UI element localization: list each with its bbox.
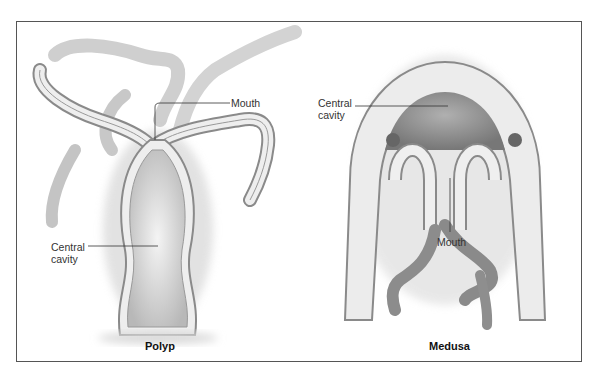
- polyp-drawing: [40, 32, 295, 344]
- cnidarian-body-forms-illustration: [0, 0, 595, 379]
- polyp-central-cavity-label-line1: Central: [51, 241, 85, 253]
- medusa-title: Medusa: [429, 340, 470, 352]
- polyp-central-cavity-label-line2: cavity: [51, 253, 78, 265]
- medusa-mouth-label: Mouth: [437, 236, 466, 248]
- medusa-central-cavity-label-line1: Central: [318, 97, 352, 109]
- polyp-mouth-label: Mouth: [231, 97, 260, 109]
- medusa-central-cavity-label-line2: cavity: [318, 109, 345, 121]
- medusa-drawing: [345, 55, 545, 325]
- polyp-title: Polyp: [145, 340, 175, 352]
